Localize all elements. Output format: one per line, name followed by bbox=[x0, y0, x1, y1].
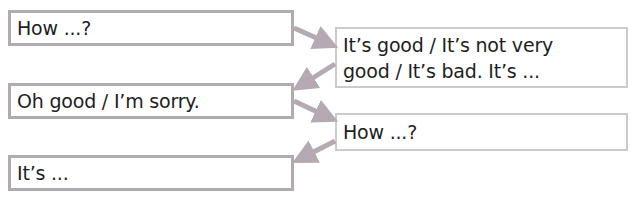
arrow-icon bbox=[300, 64, 335, 86]
flow-arrows bbox=[0, 0, 634, 201]
arrow-icon bbox=[294, 101, 330, 118]
arrow-icon bbox=[300, 141, 335, 159]
arrow-icon bbox=[294, 28, 330, 44]
